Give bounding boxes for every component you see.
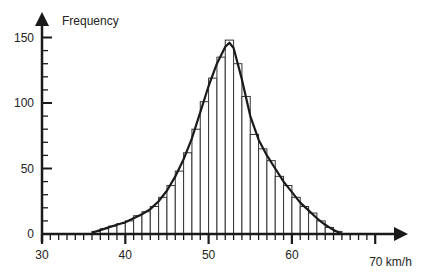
histogram-bar xyxy=(192,129,200,234)
histogram-bar xyxy=(209,78,217,234)
histogram-bar xyxy=(250,134,258,234)
y-tick-label: 50 xyxy=(21,162,35,176)
histogram-bar xyxy=(234,64,242,234)
bars-group xyxy=(92,40,342,234)
x-tick-label: 50 xyxy=(202,248,216,262)
x-tick-label: 60 xyxy=(285,248,299,262)
histogram-chart: 0501001503040506070 km/h Frequency xyxy=(0,0,425,280)
x-axis-arrow-icon xyxy=(394,227,408,241)
x-tick-label: 30 xyxy=(35,248,49,262)
y-tick-label: 0 xyxy=(27,227,34,241)
y-tick-label: 100 xyxy=(14,96,34,110)
x-tick-label: 40 xyxy=(119,248,133,262)
histogram-bar xyxy=(275,176,283,234)
histogram-bar xyxy=(159,197,167,234)
y-axis-label: Frequency xyxy=(62,14,119,28)
histogram-bar xyxy=(167,186,175,234)
histogram-bar xyxy=(142,212,150,234)
histogram-bar xyxy=(150,206,158,234)
x-tick-label: 70 km/h xyxy=(369,255,412,269)
histogram-bar xyxy=(175,171,183,234)
histogram-bar xyxy=(217,57,225,234)
histogram-bar xyxy=(125,221,133,234)
histogram-bar xyxy=(184,153,192,234)
histogram-bar xyxy=(242,96,250,234)
y-tick-label: 150 xyxy=(14,31,34,45)
histogram-bar xyxy=(225,40,233,234)
histogram-bar xyxy=(267,161,275,234)
histogram-bar xyxy=(259,149,267,234)
y-axis-arrow-icon xyxy=(35,12,49,26)
histogram-bar xyxy=(284,186,292,234)
histogram-bar xyxy=(200,102,208,234)
